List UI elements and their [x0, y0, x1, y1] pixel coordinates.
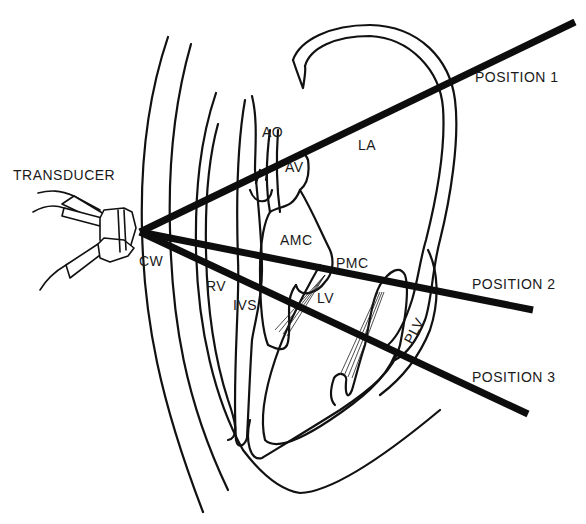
label-left-ventricle: LV	[317, 290, 334, 306]
label-position-2: POSITION 2	[472, 276, 556, 292]
label-posterior-mitral-cusp: PMC	[336, 255, 369, 271]
beam-position-1	[140, 22, 575, 232]
label-right-ventricle: RV	[206, 278, 226, 294]
label-aorta: AO	[262, 124, 283, 140]
label-aortic-valve: AV	[285, 159, 304, 175]
label-anterior-mitral-cusp: AMC	[280, 232, 313, 248]
label-chest-wall: CW	[139, 253, 164, 269]
label-left-atrium: LA	[358, 137, 376, 153]
label-transducer: TRANSDUCER	[13, 167, 115, 183]
chest-wall-lines	[142, 37, 228, 512]
label-position-1: POSITION 1	[475, 69, 559, 85]
interventricular-septum	[235, 96, 262, 446]
label-position-3: POSITION 3	[472, 369, 556, 385]
echo-diagram: TRANSDUCER CW AO AV LA AMC PMC RV IVS LV…	[0, 0, 586, 524]
transducer-probe[interactable]	[33, 191, 136, 290]
beam-position-3	[140, 232, 528, 414]
labels: TRANSDUCER CW AO AV LA AMC PMC RV IVS LV…	[13, 69, 559, 385]
label-interventricular-septum: IVS	[233, 297, 257, 313]
